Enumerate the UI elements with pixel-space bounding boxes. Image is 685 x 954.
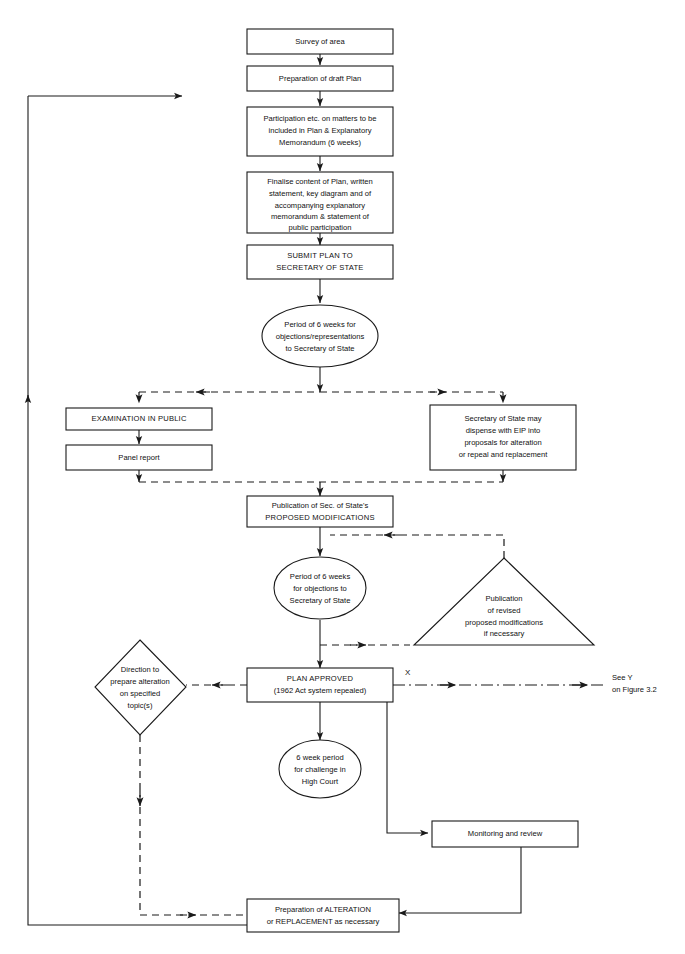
node-revised-mods-line-0: Publication [485,594,522,603]
node-dispense-eip-line-1: dispense with EIP into [466,426,541,435]
node-dispense-eip-line-0: Secretary of State may [464,414,541,423]
node-examination[interactable]: EXAMINATION IN PUBLIC [66,408,212,430]
node-finalise-line-2: accompanying explanatory [275,201,366,210]
cross-reference-note: See Y on Figure 3.2 [612,673,657,694]
node-plan-approved-line-1: (1962 Act system repealed) [274,686,367,695]
node-participation-line-2: Memorandum (6 weeks) [279,138,361,147]
node-period6weeks-mods-line-1: for objections to [293,584,347,593]
node-period6weeks-objections-line-2: to Secretary of State [285,344,354,353]
node-finalise[interactable]: Finalise content of Plan, written statem… [247,172,393,233]
node-period6weeks-objections-line-0: Period of 6 weeks for [284,320,356,329]
cross-reference-marker: X [405,668,411,677]
node-alteration-box[interactable] [247,899,399,932]
edge-triangle-to-mods-loop [330,535,504,558]
node-direction-line-0: Direction to [121,665,159,674]
node-high-court-line-1: for challenge in [294,765,346,774]
node-alteration-line-1: or REPLACEMENT as necessary [267,917,380,926]
node-finalise-line-4: public participation [289,223,352,232]
node-high-court-line-0: 6 week period [296,753,343,762]
flowchart-canvas: Survey of area Preparation of draft Plan… [0,0,685,954]
node-proposed-mods[interactable]: Publication of Sec. of State's PROPOSED … [247,496,393,527]
node-finalise-line-1: statement, key diagram and of [269,189,372,198]
node-plan-approved[interactable]: PLAN APPROVED (1962 Act system repealed) [247,668,393,702]
node-submit-line-0: SUBMIT PLAN TO [287,251,353,260]
node-participation[interactable]: Participation etc. on matters to be incl… [247,107,393,156]
node-monitoring-line-0: Monitoring and review [468,829,543,838]
node-survey[interactable]: Survey of area [247,29,393,54]
node-participation-line-1: included in Plan & Explanatory [268,126,371,135]
node-revised-mods[interactable]: Publication of revised proposed modifica… [414,558,594,645]
node-dispense-eip-line-2: proposals for alteration [464,438,541,447]
node-revised-mods-line-1: of revised [488,606,521,615]
node-revised-mods-line-2: proposed modifications [465,618,543,627]
node-direction-line-2: on specified [120,689,161,698]
node-monitoring[interactable]: Monitoring and review [432,821,578,847]
edge-direction-to-alteration [140,735,246,915]
node-period6weeks-mods[interactable]: Period of 6 weeks for objections to Secr… [274,557,366,619]
node-dispense-eip[interactable]: Secretary of State may dispense with EIP… [430,405,576,470]
node-direction[interactable]: Direction to prepare alteration on speci… [95,640,186,735]
node-survey-line-0: Survey of area [295,37,345,46]
node-finalise-line-0: Finalise content of Plan, written [267,177,373,186]
node-panel-report-line-0: Panel report [118,453,160,462]
node-direction-line-3: topic(s) [128,701,153,710]
node-draft-plan-line-0: Preparation of draft Plan [279,74,361,83]
cross-reference-note-line-1: on Figure 3.2 [612,685,657,694]
node-finalise-line-3: memorandum & statement of [271,212,370,221]
node-period6weeks-mods-line-0: Period of 6 weeks [290,572,351,581]
node-period6weeks-objections-line-1: objections/representations [276,332,365,341]
cross-reference-note-line-0: See Y [612,673,633,682]
node-direction-line-1: prepare alteration [110,677,170,686]
node-dispense-eip-line-3: or repeal and replacement [459,450,549,459]
node-proposed-mods-line-1: PROPOSED MODIFICATIONS [265,513,374,522]
node-proposed-mods-line-0: Publication of Sec. of State's [272,501,369,510]
node-revised-mods-line-3: if necessary [484,629,525,638]
node-submit-line-1: SECRETARY OF STATE [276,263,363,272]
node-plan-approved-line-0: PLAN APPROVED [287,674,354,683]
edge-monitoring-to-alteration [399,847,521,913]
node-participation-line-0: Participation etc. on matters to be [263,114,376,123]
node-high-court-line-2: High Court [302,777,339,786]
node-direction-diamond[interactable] [95,640,186,735]
node-alteration-line-0: Preparation of ALTERATION [275,905,371,914]
node-high-court[interactable]: 6 week period for challenge in High Cour… [279,740,361,798]
node-submit[interactable]: SUBMIT PLAN TO SECRETARY OF STATE [247,245,393,279]
node-examination-line-0: EXAMINATION IN PUBLIC [91,414,187,423]
node-period6weeks-mods-line-2: Secretary of State [290,596,351,605]
node-panel-report[interactable]: Panel report [66,445,212,470]
node-draft-plan[interactable]: Preparation of draft Plan [247,66,393,91]
node-period6weeks-objections[interactable]: Period of 6 weeks for objections/represe… [262,305,378,367]
node-alteration[interactable]: Preparation of ALTERATION or REPLACEMENT… [247,899,399,932]
edge-approved-to-monitoring [387,702,428,833]
